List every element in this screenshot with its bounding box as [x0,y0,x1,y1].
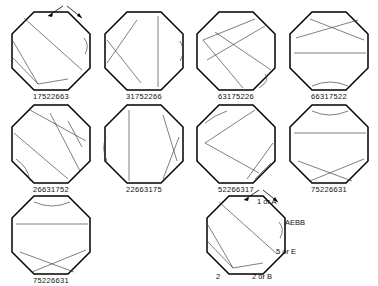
octagon-outline [197,12,275,90]
octagon-cell-8: 75226631 [286,101,372,189]
octagon-svg-8 [286,101,372,189]
arrow-left-shaft [48,6,63,16]
annotation-code: AEBB [285,218,305,227]
octagon-outline [12,105,90,183]
octagon-cell-2: 31752266 [101,8,187,96]
annotation-vertex-2-or-b: 2 or B [252,272,272,281]
octagon-caption-6: 22663175 [101,185,187,194]
rotation-arrows-1 [45,2,89,22]
arrow-left-head [244,197,249,201]
octagon-svg-6 [101,101,187,189]
octagon-caption-9: 75226631 [8,276,94,285]
annotation-vertex-1: 1 or A [257,197,277,206]
octagon-outline [12,196,90,274]
octagon-outline [12,12,90,90]
octagon-caption-4: 66317522 [286,92,372,101]
arrow-left-head [48,13,53,17]
annotation-vertex-2-left: 2 [216,272,220,281]
octagon-cell-7: 52266317 [193,101,279,189]
octagon-outline [290,105,368,183]
octagon-cell-6: 22663175 [101,101,187,189]
octagon-caption-8: 75226631 [286,185,372,194]
octagon-svg-4 [286,8,372,96]
octagon-caption-2: 31752266 [101,92,187,101]
octagon-svg-7 [193,101,279,189]
octagon-outline [105,105,183,183]
arrow-right-head [77,13,82,18]
octagon-svg-2 [101,8,187,96]
octagon-outline [207,196,285,274]
annotation-vertex-5: 5 or E [276,247,296,256]
octagon-outline [197,105,275,183]
octagon-svg-9 [8,192,94,280]
octagon-outline [290,12,368,90]
octagon-cell-3: 63175226 [193,8,279,96]
octagon-caption-3: 63175226 [193,92,279,101]
octagon-cell-4: 66317522 [286,8,372,96]
octagon-svg-3 [193,8,279,96]
octagon-outline [105,12,183,90]
octagon-cell-5: 26631752 [8,101,94,189]
octagon-cell-9: 75226631 [8,192,94,280]
octagon-caption-1: 17522663 [8,92,94,101]
octagon-diagram-figure: 17522663 31752266 63175226 66317522 [0,0,378,286]
octagon-svg-5 [8,101,94,189]
